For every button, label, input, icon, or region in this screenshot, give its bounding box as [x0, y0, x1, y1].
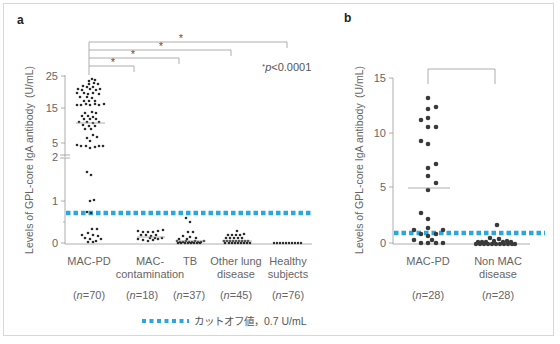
dots-mac-contamination [137, 229, 165, 243]
significance-star: * [179, 32, 184, 44]
legend-cutoff-label: カットオフ値，0.7 U/mL [194, 315, 307, 327]
category-label-other-lung-disease-line2: disease [217, 268, 255, 280]
panel-b: b Levels of GPL-core IgA antibody (U/mL)… [344, 11, 545, 301]
dots-mac-pd [76, 78, 106, 244]
tick-label: 5 [52, 137, 58, 149]
category-label-other-lung-disease: Other lung [210, 255, 261, 267]
figure-canvas: a Levels of GPL-core IgA antibody (U/mL)… [0, 0, 560, 344]
significance-star: * [111, 56, 116, 68]
significance-star: * [131, 48, 136, 60]
category-label-b-non-mac: Non MAC [474, 255, 522, 267]
dots-other-lung-disease [223, 230, 252, 245]
significance-brackets [89, 42, 287, 75]
tick-label: 1 [52, 195, 58, 207]
category-label-healthy-subjects-line2: subjects [268, 268, 309, 280]
category-label-mac-contamination: MAC- [136, 255, 164, 267]
n-label-b-non-mac: (n=28) [482, 289, 514, 301]
significance-star: * [159, 40, 164, 52]
category-label-tb: TB [183, 255, 197, 267]
n-label-b-mac-pd: (n=28) [412, 289, 444, 301]
category-label-b-non-mac-line2: disease [479, 268, 517, 280]
dots-b-mac-pd [412, 96, 446, 246]
legend: カットオフ値，0.7 U/mL [142, 315, 307, 327]
tick-label: 15 [374, 72, 386, 84]
tick-label: 15 [46, 102, 58, 114]
tick-label: 0 [52, 237, 58, 249]
panel-a: a Levels of GPL-core IgA antibody (U/mL)… [17, 13, 312, 301]
category-label-b-mac-pd: MAC-PD [406, 255, 449, 267]
category-label-mac-contamination-line2: contamination [116, 268, 185, 280]
category-label-healthy-subjects: Healthy [269, 255, 307, 267]
dots-tb [176, 217, 206, 245]
tick-label: 2 [52, 151, 58, 163]
panel-a-label: a [17, 13, 24, 27]
n-label-other-lung-disease: (n=45) [220, 289, 252, 301]
panel-b-label: b [344, 11, 351, 25]
n-label-healthy-subjects: (n=76) [272, 289, 304, 301]
significance-bracket [428, 69, 495, 84]
category-label-mac-pd: MAC-PD [67, 255, 110, 267]
tick-label: 10 [374, 127, 386, 139]
tick-label: 25 [46, 70, 58, 82]
panel-a-y-axis-label: Levels of GPL-core IgA antibody (U/mL) [23, 66, 35, 254]
p-value-note: *p<0.0001 [262, 61, 311, 73]
n-label-mac-pd: (n=70) [73, 289, 105, 301]
n-label-tb: (n=37) [173, 289, 205, 301]
tick-label: 0 [380, 237, 386, 249]
panel-b-y-axis-label: Levels of GPL-core IgA antibody (U/mL) [353, 66, 365, 254]
tick-label: 5 [380, 181, 386, 193]
n-label-mac-contamination: (n=18) [126, 289, 158, 301]
